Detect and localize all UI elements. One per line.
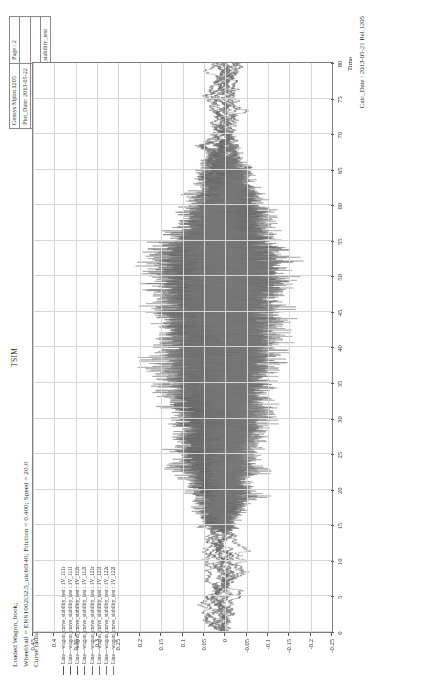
legend-label: Line—wagon_curve_stability_test : 1V_112… [81,567,88,664]
x-tick-mark [331,561,334,562]
x-tick-mark [331,347,334,348]
x-tick-mark [331,241,334,242]
legend-item: Line—wagon_curve_stability_test : 1V_111… [67,566,74,675]
x-tick-label: 50 [336,274,343,281]
legend-label: Line—wagon_curve_stability_test : 1V_112… [74,566,81,664]
gridline-horizontal [161,63,162,632]
y-tick-label: 0.15 [157,639,164,651]
legend-item: Line—wagon_curve_stability_test : 1V_112… [81,566,88,675]
x-tick-mark [331,312,334,313]
legend-item: Line—wagon_curve_stability_test : 1V_122… [103,566,110,675]
legend-label: Line—wagon_curve_stability_test : 1V_111… [67,567,74,664]
x-tick-label: 65 [336,167,343,174]
title-line-1: Loaded Wagon_book; [10,462,21,667]
y-tick-mark [182,633,183,636]
header-row: Plot_Date: 2013-05-22 [20,17,30,128]
gridline-horizontal [54,63,55,632]
legend-color-swatch [70,666,71,675]
gridline-horizontal [140,63,141,632]
gridline-horizontal [311,63,312,632]
x-tick-label: 10 [336,559,343,566]
header-row: Gensys Mplot.1205 Page : 2 [10,17,20,128]
legend-color-swatch [106,666,107,675]
x-tick-label: 60 [336,203,343,210]
y-tick-mark [117,633,118,636]
x-tick-mark [331,205,334,206]
plot-sheet: Gensys Mplot.1205 Page : 2 Plot_Date: 20… [0,0,421,689]
y-tick-mark [53,633,54,636]
x-tick-mark [331,276,334,277]
y-tick-mark [32,633,33,636]
legend-item: Line—wagon_curve_stability_test : 1V_122… [110,566,117,675]
y-tick-mark [224,633,225,636]
legend-color-swatch [63,666,64,675]
chart-title: TSIM [10,348,19,367]
legend-color-swatch [84,666,85,675]
x-tick-label: 35 [336,381,343,388]
x-tick-mark [331,454,334,455]
x-tick-mark [331,525,334,526]
x-tick-mark [331,419,334,420]
x-tick-label: 5 [336,596,343,599]
legend-color-swatch [77,666,78,675]
legend: Line—wagon_curve_stability_test : 1V_111… [60,566,117,675]
header-product: Gensys Mplot.1205 [10,63,19,128]
x-tick-label: 30 [336,416,343,423]
y-tick-mark [203,633,204,636]
gridline-horizontal [225,63,226,632]
y-tick-label: -0.1 [263,639,270,649]
y-tick-label: -0.05 [242,639,249,653]
x-tick-label: 25 [336,452,343,459]
x-tick-mark [331,63,334,64]
x-tick-label: 80 [336,61,343,68]
legend-item: Line—wagon_curve_stability_test : 1V_111… [60,566,67,675]
header-spacer-b [31,17,40,63]
legend-item: Line—wagon_curve_stability_test : 1V_112… [74,566,81,675]
x-tick-mark [331,170,334,171]
calc-date-footer: Calc_Date : 2013-05-21 Rel.1205 [358,16,365,108]
y-tick-label: 0 [221,639,228,642]
x-tick-label: 15 [336,523,343,530]
x-tick-label: 20 [336,487,343,494]
title-line-2: Wheel/rail = ENS1002i32.5_uic60i40; Fric… [21,462,32,667]
y-tick-label: -0.25 [328,639,335,653]
legend-label: Line—wagon_curve_stability_test : 1V_121… [96,566,103,664]
x-tick-mark [331,596,334,597]
x-tick-label: 55 [336,239,343,246]
y-tick-label: 0.05 [199,639,206,651]
y-tick-label: -0.15 [285,639,292,653]
y-tick-label: 0.1 [178,639,185,647]
legend-label: Line—wagon_curve_stability_test : 1V_111… [60,566,67,664]
legend-color-swatch [92,666,93,675]
gridline-horizontal [183,63,184,632]
x-tick-mark [331,490,334,491]
x-tick-mark [331,134,334,135]
plot-area [32,62,333,633]
y-tick-mark [310,633,311,636]
x-tick-label: 40 [336,345,343,352]
x-tick-mark [331,99,334,100]
x-axis-title: Time [346,57,353,71]
gridline-horizontal [204,63,205,632]
y-tick-mark [288,633,289,636]
gridline-horizontal [118,63,119,632]
gridline-horizontal [268,63,269,632]
x-tick-label: 45 [336,310,343,317]
y-tick-mark [160,633,161,636]
y-tick-mark [331,633,332,636]
y-tick-label: 0.45 [29,639,36,651]
gridline-horizontal [289,63,290,632]
y-tick-mark [246,633,247,636]
gridline-horizontal [97,63,98,632]
header-spacer-a [20,17,29,63]
legend-label: Line—wagon_curve_stability_test : 1V_122… [103,566,110,664]
legend-label: Line—wagon_curve_stability_test : 1V_122… [110,566,117,664]
legend-item: Line—wagon_curve_stability_test : 1V_121… [96,566,103,675]
legend-color-swatch [99,666,100,675]
y-tick-label: 0.2 [135,639,142,647]
header-page: Page : 2 [10,17,19,63]
legend-color-swatch [113,666,114,675]
y-tick-mark [139,633,140,636]
gridline-horizontal [247,63,248,632]
x-tick-label: 75 [336,96,343,103]
